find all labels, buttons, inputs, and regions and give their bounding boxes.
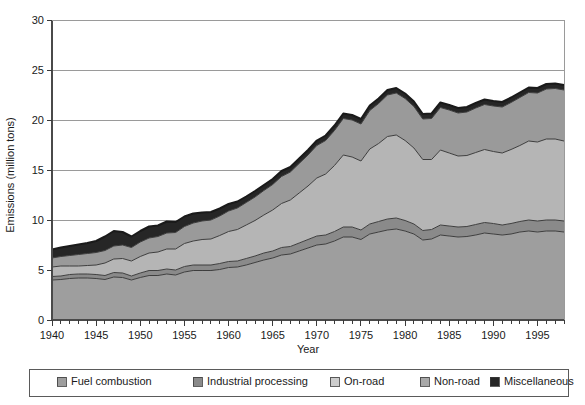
legend-label-miscellaneous: Miscellaneous (504, 375, 574, 387)
x-tick-label: 1940 (40, 329, 64, 341)
x-axis-title: Year (297, 343, 320, 355)
legend-swatch-on-road (330, 377, 339, 386)
x-tick-label: 1955 (172, 329, 196, 341)
x-tick-label: 1990 (481, 329, 505, 341)
x-tick-label: 1985 (437, 329, 461, 341)
legend-swatch-fuel-combustion (57, 377, 66, 386)
y-tick-label: 30 (32, 14, 44, 26)
x-tick-label: 1995 (525, 329, 549, 341)
legend-label-non-road: Non-road (434, 375, 480, 387)
legend-swatch-miscellaneous (490, 377, 499, 386)
y-tick-label: 10 (32, 214, 44, 226)
emissions-stacked-area-chart: 1940194519501955196019651970197519801985… (0, 0, 585, 405)
y-tick-label: 15 (32, 164, 44, 176)
x-tick-label: 1965 (260, 329, 284, 341)
x-tick-label: 1960 (216, 329, 240, 341)
x-tick-label: 1975 (349, 329, 373, 341)
y-tick-label: 0 (38, 314, 44, 326)
y-tick-label: 25 (32, 64, 44, 76)
legend-label-on-road: On-road (344, 375, 384, 387)
x-tick-label: 1950 (128, 329, 152, 341)
y-axis-title: Emissions (million tons) (4, 117, 16, 233)
x-tick-label: 1945 (84, 329, 108, 341)
legend-swatch-non-road (420, 377, 429, 386)
y-tick-label: 20 (32, 114, 44, 126)
x-tick-label: 1970 (305, 329, 329, 341)
legend-swatch-industrial-processing (193, 377, 202, 386)
y-tick-label: 5 (38, 264, 44, 276)
legend-label-industrial-processing: Industrial processing (207, 375, 308, 387)
legend-label-fuel-combustion: Fuel combustion (71, 375, 152, 387)
x-tick-label: 1980 (393, 329, 417, 341)
